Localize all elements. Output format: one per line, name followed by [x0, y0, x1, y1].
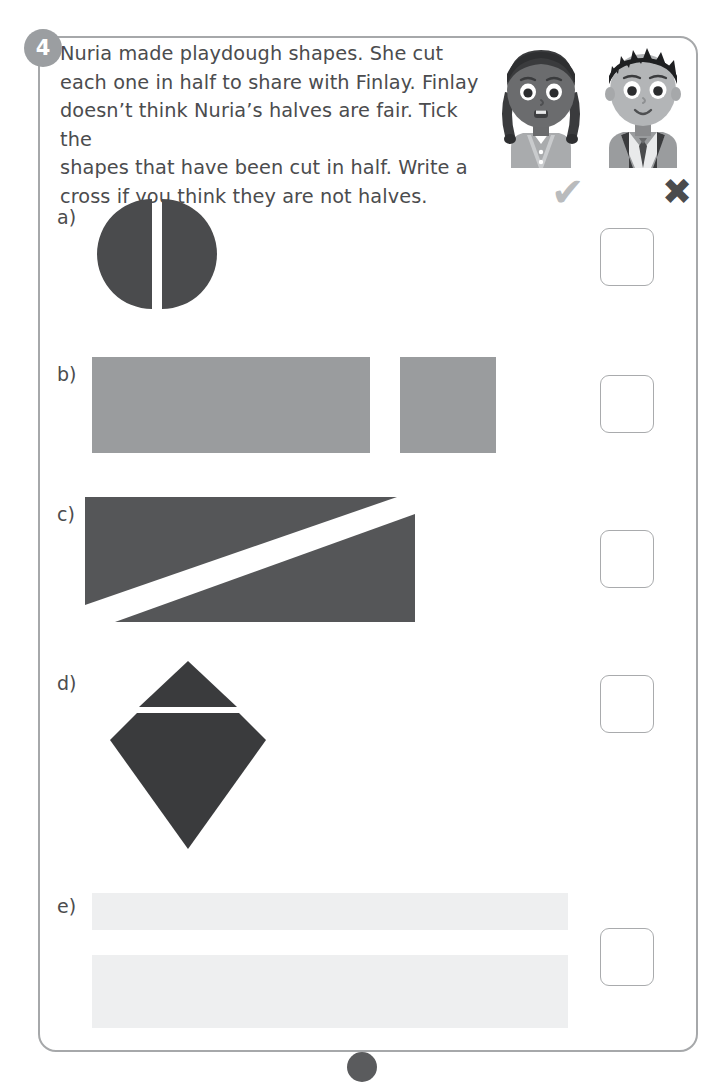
character-illustrations	[495, 40, 691, 170]
question-line-2: each one in half to share with Finlay. F…	[60, 69, 485, 98]
question-number-badge: 4	[24, 29, 62, 67]
shape-b-large-rect	[92, 357, 370, 453]
part-label-e: e)	[57, 895, 76, 917]
question-line-1: Nuria made playdough shapes. She cut	[60, 40, 485, 69]
answer-box-e[interactable]	[600, 928, 654, 986]
girl-avatar-icon	[497, 40, 585, 168]
part-label-c: c)	[57, 503, 75, 525]
answer-box-b[interactable]	[600, 375, 654, 433]
answer-box-d[interactable]	[600, 675, 654, 733]
shape-d-diamond-split	[110, 658, 266, 852]
answer-box-c[interactable]	[600, 530, 654, 588]
question-text: Nuria made playdough shapes. She cut eac…	[60, 40, 485, 212]
cross-icon: ✖	[662, 174, 692, 210]
page-marker	[347, 1052, 377, 1082]
tick-icon: ✔	[551, 172, 585, 212]
boy-avatar-icon	[599, 40, 687, 168]
question-line-3: doesn’t think Nuria’s halves are fair. T…	[60, 97, 485, 154]
part-label-b: b)	[57, 363, 76, 385]
shape-c-rect-split-diagonal	[85, 497, 415, 622]
shape-e-thick-bar	[92, 955, 568, 1028]
shape-b-small-rect	[400, 357, 496, 453]
question-line-4: shapes that have been cut in half. Write…	[60, 154, 485, 183]
shape-e-thin-bar	[92, 893, 568, 930]
answer-box-a[interactable]	[600, 228, 654, 286]
shape-a-circle-split	[88, 199, 226, 309]
part-label-d: d)	[57, 672, 76, 694]
part-label-a: a)	[57, 206, 76, 228]
